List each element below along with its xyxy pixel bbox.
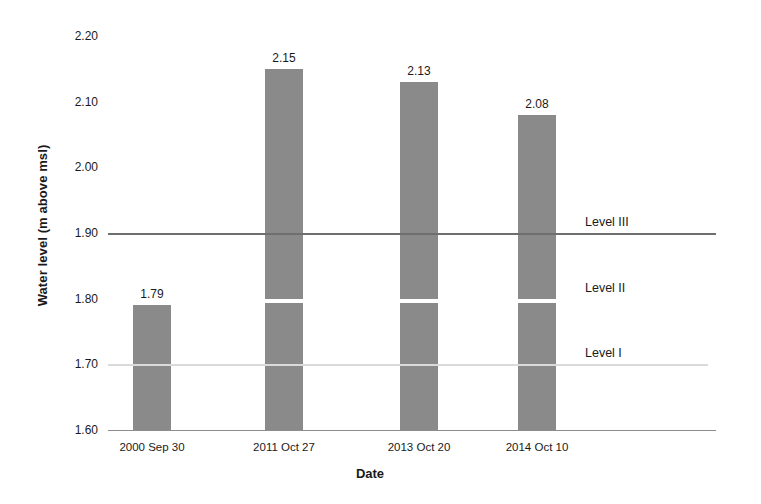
y-axis-tick-label: 2.10 bbox=[52, 96, 98, 108]
y-axis-tick-label: 2.00 bbox=[52, 161, 98, 173]
x-axis-tick-label: 2011 Oct 27 bbox=[224, 441, 344, 453]
y-axis-tick-label: 2.20 bbox=[52, 30, 98, 42]
threshold-label: Level II bbox=[585, 282, 625, 295]
y-axis-tick-label: 1.70 bbox=[52, 358, 98, 370]
threshold-line bbox=[108, 364, 708, 366]
threshold-line bbox=[128, 299, 586, 303]
bar-chart: Water level (m above msl) 2.202.102.001.… bbox=[0, 0, 761, 504]
x-axis-tick-label: 2000 Sep 30 bbox=[92, 441, 212, 453]
x-axis-tick-label: 2013 Oct 20 bbox=[359, 441, 479, 453]
y-axis-title: Water level (m above msl) bbox=[35, 106, 50, 346]
threshold-label: Level I bbox=[585, 347, 622, 360]
y-axis-tick-label: 1.60 bbox=[52, 424, 98, 436]
bar[interactable] bbox=[265, 69, 303, 430]
y-axis-tick-label: 1.90 bbox=[52, 227, 98, 239]
bar-value-label: 2.15 bbox=[254, 52, 314, 64]
bar-value-label: 2.08 bbox=[507, 98, 567, 110]
bar-value-label: 1.79 bbox=[122, 288, 182, 300]
bar[interactable] bbox=[518, 115, 556, 430]
x-axis-line bbox=[108, 430, 716, 431]
bar[interactable] bbox=[400, 82, 438, 430]
x-axis-tick-label: 2014 Oct 10 bbox=[477, 441, 597, 453]
bar-value-label: 2.13 bbox=[389, 65, 449, 77]
x-axis-title: Date bbox=[90, 466, 650, 481]
bar[interactable] bbox=[133, 305, 171, 430]
plot-area bbox=[108, 30, 716, 430]
threshold-line bbox=[108, 233, 716, 235]
y-axis-tick-label: 1.80 bbox=[52, 293, 98, 305]
threshold-label: Level III bbox=[585, 216, 629, 229]
